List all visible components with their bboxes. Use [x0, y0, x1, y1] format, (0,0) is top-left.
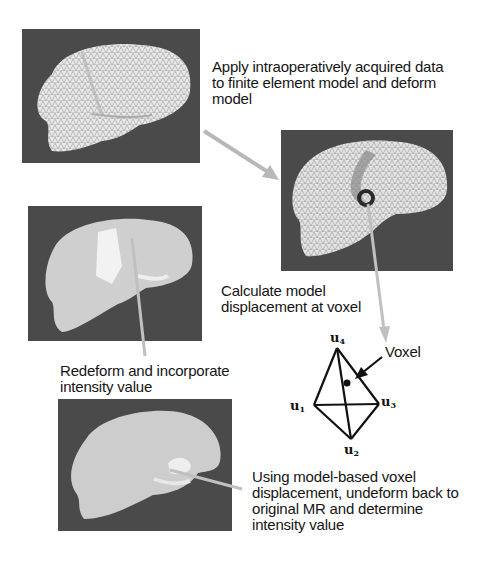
node-label-u2: u2: [344, 442, 359, 458]
node-label-u1: u1: [290, 398, 305, 414]
voxel-label: Voxel: [385, 344, 421, 360]
panel-original-mr: [58, 399, 232, 531]
arrow-apply-icon: [204, 131, 279, 180]
redeformed-brain-image: [28, 206, 202, 341]
voxel-pointer-arrow-icon: [355, 357, 382, 379]
caption-apply: Apply intraoperatively acquired data to …: [212, 59, 447, 107]
panel-original-mesh: [22, 29, 200, 163]
deformed-mesh-image: [281, 130, 453, 271]
node-label-u4: u4: [330, 330, 345, 346]
panel-deformed-mesh: [281, 130, 453, 271]
caption-calculate: Calculate model displacement at voxel: [221, 283, 391, 315]
caption-redeform: Redeform and incorporate intensity value: [60, 363, 260, 395]
panel-redeformed-render: [28, 206, 202, 341]
brain-mesh-image: [22, 29, 200, 163]
original-mr-brain-image: [58, 399, 232, 531]
node-label-u3: u3: [381, 394, 396, 410]
caption-undeform: Using model-based voxel displacement, un…: [252, 469, 467, 533]
tetrahedron-diagram: [314, 348, 379, 439]
voxel-point-icon: [344, 380, 351, 387]
